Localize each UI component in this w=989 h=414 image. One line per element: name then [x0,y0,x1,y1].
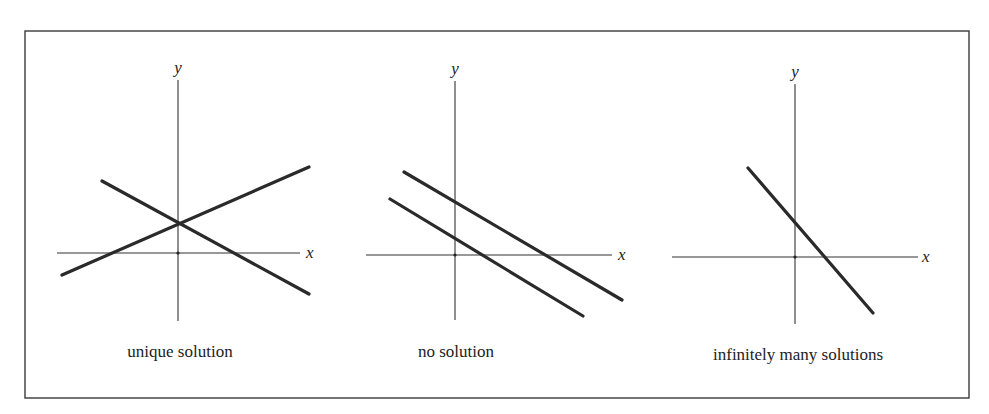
intersecting-line-1 [62,167,309,275]
x-axis-label: x [617,245,626,264]
y-axis-label: y [789,62,799,81]
caption-no-solution: no solution [418,342,495,361]
parallel-line-upper [404,172,622,300]
x-axis-label: x [305,243,314,262]
y-axis-label: y [449,59,459,78]
figure-canvas: x y unique solution x y no solution x y … [0,0,989,414]
parallel-line-lower [390,199,583,316]
origin-dot [453,253,456,256]
coincident-line [748,168,873,313]
caption-infinitely-many-solutions: infinitely many solutions [713,345,883,364]
y-axis-label: y [172,58,182,77]
origin-dot [176,251,179,254]
intersecting-line-2 [102,181,309,294]
origin-dot [793,255,796,258]
x-axis-label: x [921,247,930,266]
panel-infinitely-many-solutions: x y infinitely many solutions [672,62,930,364]
caption-unique-solution: unique solution [127,342,233,361]
panel-no-solution: x y no solution [366,59,626,361]
panel-unique-solution: x y unique solution [57,58,314,361]
linear-systems-figure: x y unique solution x y no solution x y … [0,0,989,414]
